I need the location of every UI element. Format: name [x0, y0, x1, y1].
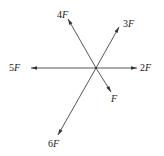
arrowhead-icon [106, 86, 111, 92]
force-label-4F: 4F [57, 9, 69, 20]
force-vector-1F [96, 68, 111, 92]
vector-line [68, 19, 96, 68]
force-labels: 4F3F5F2FF6F [9, 9, 152, 149]
arrowhead-icon [31, 66, 37, 70]
force-label-1F: F [110, 93, 118, 104]
arrowhead-icon [114, 27, 119, 33]
force-label-3F: 3F [123, 18, 135, 29]
force-vector-5F [31, 66, 96, 70]
arrowhead-icon [58, 129, 63, 135]
vector-line [96, 27, 119, 68]
force-vector-4F [68, 19, 96, 68]
force-diagram: 4F3F5F2FF6F [0, 0, 164, 156]
force-vector-6F [58, 68, 96, 135]
origin-point [95, 67, 97, 69]
force-vector-2F [96, 66, 137, 70]
force-vectors [31, 19, 137, 135]
force-label-2F: 2F [140, 62, 152, 73]
arrowhead-icon [68, 19, 73, 25]
force-label-6F: 6F [48, 138, 60, 149]
vector-line [58, 68, 96, 135]
force-vector-3F [96, 27, 119, 68]
arrowhead-icon [131, 66, 137, 70]
force-label-5F: 5F [9, 62, 21, 73]
